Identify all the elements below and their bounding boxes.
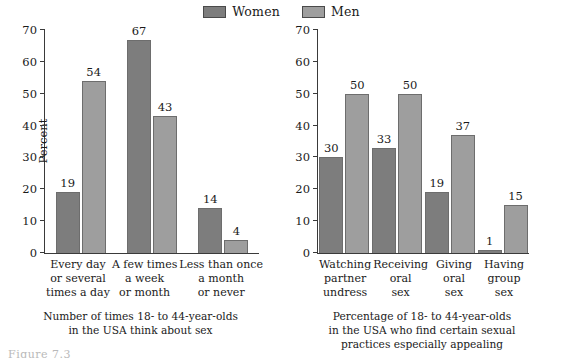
panel-caption-line: Number of times 18- to 44-year-olds <box>0 310 281 324</box>
bar-slot: 4 <box>224 30 248 253</box>
bar-men <box>345 94 369 253</box>
category-label-line: times a day <box>46 286 110 300</box>
bar-slot: 37 <box>451 30 475 253</box>
panel-caption-right: Percentage of 18- to 44-year-oldsin the … <box>281 310 563 351</box>
bar-men <box>504 205 528 253</box>
bar-value-label: 14 <box>203 192 218 206</box>
bar-groups-right: 305033501937115 <box>318 30 529 253</box>
panel-caption-line: practices especially appealing <box>281 338 563 352</box>
bar-slot: 30 <box>319 30 343 253</box>
category-label-line: partner <box>319 272 371 286</box>
bar-value-label: 19 <box>60 176 75 190</box>
y-tick-label: 10 <box>295 214 310 228</box>
bar-value-label: 54 <box>86 65 101 79</box>
bar-group: 3050 <box>318 30 371 253</box>
bar-value-label: 37 <box>456 119 471 133</box>
y-tick-label: 30 <box>295 150 310 164</box>
legend-entry-women: Women <box>203 4 280 19</box>
y-tick-label: 40 <box>295 119 310 133</box>
panel-caption-line: Percentage of 18- to 44-year-olds <box>281 310 563 324</box>
category-label-line: a week <box>112 272 177 286</box>
plot-area-left: Percent 010203040506070 19546743144 Ever… <box>44 30 259 254</box>
bar-value-label: 1 <box>486 234 493 248</box>
bar-value-label: 19 <box>430 176 445 190</box>
bar-women <box>198 208 222 253</box>
bar-value-label: 33 <box>377 132 392 146</box>
bar-women <box>56 192 80 253</box>
category-label-line: Having <box>480 258 528 272</box>
category-label-line: or month <box>112 286 177 300</box>
category-label: Watchingpartnerundress <box>318 258 372 300</box>
bar-slot: 50 <box>345 30 369 253</box>
category-label-line: sex <box>373 286 428 300</box>
y-tick-label: 20 <box>295 182 310 196</box>
panel-caption-line: in the USA think about sex <box>0 324 281 338</box>
chart-panels: Percent 010203040506070 19546743144 Ever… <box>0 22 563 338</box>
y-tick-label: 40 <box>22 119 37 133</box>
bar-value-label: 67 <box>132 24 147 38</box>
bar-group: 6743 <box>116 30 187 253</box>
y-tick-label: 0 <box>30 246 37 260</box>
bar-men <box>153 116 177 253</box>
legend-label-women: Women <box>232 4 280 19</box>
legend-swatch-men <box>302 6 325 18</box>
bar-group: 3350 <box>371 30 424 253</box>
legend-label-men: Men <box>331 4 360 19</box>
category-label-line: sex <box>480 286 528 300</box>
plot-area-right: 010203040506070 305033501937115 Watching… <box>317 30 529 254</box>
bar-women <box>425 192 449 253</box>
category-label: Givingoralsex <box>429 258 479 300</box>
bar-slot: 50 <box>398 30 422 253</box>
category-label: Every dayor severaltimes a day <box>45 258 111 300</box>
category-label: A few timesa weekor month <box>111 258 178 300</box>
bar-value-label: 50 <box>350 78 365 92</box>
category-label-line: a month <box>179 272 263 286</box>
bar-women <box>127 40 151 253</box>
y-tick-label: 60 <box>22 55 37 69</box>
bar-slot: 19 <box>56 30 80 253</box>
y-tick-label: 30 <box>22 150 37 164</box>
bar-women <box>372 148 396 253</box>
bar-slot: 19 <box>425 30 449 253</box>
y-tick-label: 70 <box>22 23 37 37</box>
y-tick-label: 50 <box>295 87 310 101</box>
bar-women <box>319 157 343 253</box>
bar-slot: 1 <box>478 30 502 253</box>
bar-value-label: 50 <box>403 78 418 92</box>
bar-slot: 15 <box>504 30 528 253</box>
category-label-line: undress <box>319 286 371 300</box>
category-label-line: group <box>480 272 528 286</box>
bar-men <box>224 240 248 253</box>
y-tick-label: 70 <box>295 23 310 37</box>
category-label-line: Watching <box>319 258 371 272</box>
chart-legend: Women Men <box>0 4 563 19</box>
bar-slot: 14 <box>198 30 222 253</box>
y-tick-label: 50 <box>22 87 37 101</box>
panel-caption-line: in the USA who find certain sexual <box>281 324 563 338</box>
bar-men <box>451 135 475 253</box>
figure-caption: Figure 7.3 <box>8 348 71 358</box>
bar-men <box>82 81 106 253</box>
category-label-line: or never <box>179 286 263 300</box>
category-label-line: A few times <box>112 258 177 272</box>
bar-slot: 54 <box>82 30 106 253</box>
bar-value-label: 4 <box>233 224 240 238</box>
bar-slot: 67 <box>127 30 151 253</box>
category-labels-left: Every dayor severaltimes a dayA few time… <box>45 258 259 300</box>
category-label-line: or several <box>46 272 110 286</box>
bar-slot: 33 <box>372 30 396 253</box>
y-tick-label: 0 <box>303 246 310 260</box>
category-label: Havinggroupsex <box>479 258 529 300</box>
bar-value-label: 15 <box>508 189 523 203</box>
category-label-line: sex <box>430 286 478 300</box>
bar-value-label: 43 <box>158 100 173 114</box>
bar-group: 1937 <box>424 30 477 253</box>
bar-slot: 43 <box>153 30 177 253</box>
y-tick-label: 10 <box>22 214 37 228</box>
bar-group: 144 <box>188 30 259 253</box>
category-label: Less than oncea monthor never <box>178 258 264 300</box>
bar-men <box>398 94 422 253</box>
legend-entry-men: Men <box>302 4 360 19</box>
chart-panel-think-about-sex: Percent 010203040506070 19546743144 Ever… <box>0 22 281 338</box>
category-label-line: oral <box>430 272 478 286</box>
